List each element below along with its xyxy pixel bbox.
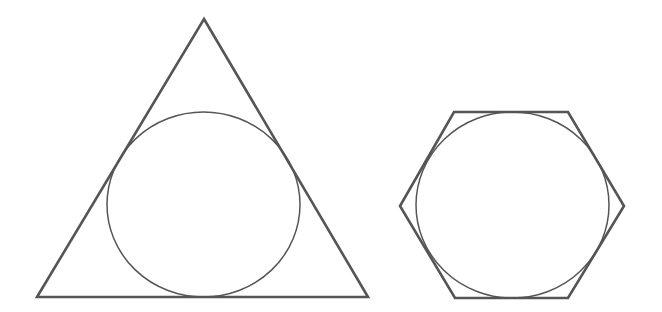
triangle-figure <box>37 19 368 297</box>
triangle-incircle <box>107 112 300 297</box>
regular-hexagon <box>400 112 624 298</box>
geometry-diagram <box>0 0 662 312</box>
hexagon-incircle <box>416 112 609 298</box>
hexagon-figure <box>400 112 624 298</box>
equilateral-triangle <box>37 19 368 297</box>
